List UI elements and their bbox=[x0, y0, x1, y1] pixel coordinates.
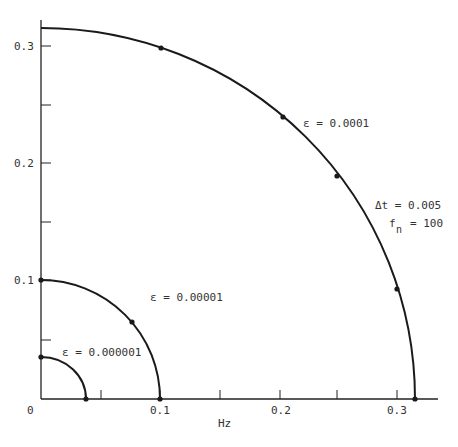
curve-eps-0.0001 bbox=[41, 28, 415, 399]
x-tick-label: 0 bbox=[27, 404, 34, 417]
x-ticks bbox=[101, 390, 397, 399]
label-fn-f: f bbox=[389, 217, 396, 230]
y-tick-label: 0.1 bbox=[14, 274, 34, 287]
chart: 0.3 0.2 0.1 0 0.1 0.2 0.3 Hz ε = 0.0001 … bbox=[0, 0, 458, 447]
label-eps-0.00001: ε = 0.00001 bbox=[150, 291, 223, 304]
curve-eps-0.00001 bbox=[41, 280, 160, 399]
x-tick-label: 0.1 bbox=[150, 404, 170, 417]
curve-eps-0.000001 bbox=[41, 357, 86, 399]
x-tick-label: 0.3 bbox=[387, 404, 407, 417]
x-tick-label: 0.2 bbox=[271, 404, 291, 417]
label-eps-0.000001: ε = 0.000001 bbox=[62, 346, 141, 359]
label-fn-subscript: n bbox=[396, 224, 402, 235]
y-tick-label: 0.2 bbox=[14, 157, 34, 170]
y-ticks bbox=[41, 46, 51, 340]
label-delta-t: Δt = 0.005 bbox=[375, 199, 441, 212]
y-tick-label: 0.3 bbox=[14, 40, 34, 53]
markers-eps-0.0001 bbox=[158, 45, 417, 401]
label-fn-value: = 100 bbox=[410, 217, 443, 230]
x-axis-title: Hz bbox=[218, 417, 231, 430]
label-eps-0.0001: ε = 0.0001 bbox=[303, 117, 369, 130]
